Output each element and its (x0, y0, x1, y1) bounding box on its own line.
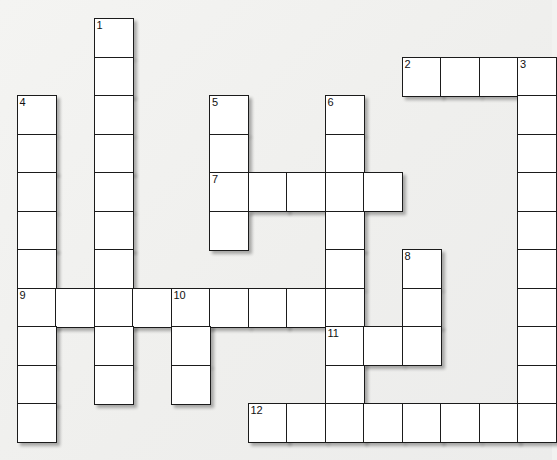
crossword-cell[interactable] (325, 134, 365, 174)
cell-number: 9 (20, 289, 26, 301)
crossword-cell[interactable] (209, 134, 249, 174)
crossword-cell[interactable] (517, 365, 557, 405)
crossword-cell[interactable] (55, 288, 95, 328)
crossword-cell[interactable] (363, 172, 403, 212)
crossword-cell-numbered-1[interactable]: 1 (94, 18, 134, 58)
crossword-cell[interactable] (402, 326, 442, 366)
crossword-cell[interactable] (17, 365, 57, 405)
crossword-cell[interactable] (94, 365, 134, 405)
crossword-cell[interactable] (286, 172, 326, 212)
crossword-cell[interactable] (94, 172, 134, 212)
crossword-cell[interactable] (94, 288, 134, 328)
crossword-cell[interactable] (17, 326, 57, 366)
cell-number: 8 (405, 250, 411, 262)
crossword-cell[interactable] (94, 95, 134, 135)
crossword-cell[interactable] (325, 249, 365, 289)
crossword-cell[interactable] (286, 403, 326, 443)
crossword-cell-numbered-10[interactable]: 10 (171, 288, 211, 328)
crossword-cell-numbered-3[interactable]: 3 (517, 57, 557, 97)
crossword-cell[interactable] (17, 134, 57, 174)
crossword-cell[interactable] (94, 249, 134, 289)
crossword-cell[interactable] (17, 403, 57, 443)
crossword-cell[interactable] (363, 326, 403, 366)
cell-number: 3 (520, 58, 526, 70)
cell-number: 2 (405, 58, 411, 70)
crossword-cell[interactable] (94, 326, 134, 366)
crossword-cell-numbered-9[interactable]: 9 (17, 288, 57, 328)
crossword-cell-numbered-12[interactable]: 12 (248, 403, 288, 443)
crossword-cell[interactable] (517, 249, 557, 289)
cell-number: 6 (328, 96, 334, 108)
crossword-cell[interactable] (440, 57, 480, 97)
crossword-cell[interactable] (517, 326, 557, 366)
crossword-cell-numbered-8[interactable]: 8 (402, 249, 442, 289)
crossword-cell[interactable] (325, 365, 365, 405)
crossword-cell[interactable] (17, 172, 57, 212)
crossword-cell[interactable] (517, 211, 557, 251)
crossword-cell[interactable] (363, 403, 403, 443)
crossword-cell[interactable] (17, 211, 57, 251)
crossword-cell[interactable] (171, 365, 211, 405)
crossword-cell[interactable] (209, 211, 249, 251)
crossword-cell[interactable] (94, 211, 134, 251)
cell-number: 10 (174, 289, 186, 301)
crossword-cell[interactable] (479, 403, 519, 443)
crossword-cell[interactable] (517, 403, 557, 443)
crossword-cell[interactable] (94, 134, 134, 174)
cell-number: 7 (212, 173, 218, 185)
crossword-cell[interactable] (402, 403, 442, 443)
crossword-cell[interactable] (517, 95, 557, 135)
cell-number: 11 (328, 327, 339, 339)
crossword-cell-numbered-2[interactable]: 2 (402, 57, 442, 97)
crossword-cell[interactable] (440, 403, 480, 443)
crossword-cell[interactable] (479, 57, 519, 97)
crossword-cell[interactable] (325, 403, 365, 443)
crossword-cell[interactable] (517, 134, 557, 174)
cell-number: 4 (20, 96, 26, 108)
crossword-cell-numbered-6[interactable]: 6 (325, 95, 365, 135)
crossword-cell[interactable] (17, 249, 57, 289)
crossword-cell[interactable] (248, 288, 288, 328)
crossword-cell[interactable] (325, 288, 365, 328)
crossword-cell[interactable] (248, 172, 288, 212)
crossword-cell[interactable] (94, 57, 134, 97)
crossword-cell[interactable] (325, 172, 365, 212)
crossword-cell[interactable] (286, 288, 326, 328)
crossword-cell[interactable] (517, 172, 557, 212)
cell-number: 12 (251, 404, 263, 416)
crossword-cell[interactable] (171, 326, 211, 366)
crossword-cell[interactable] (132, 288, 172, 328)
crossword-cell-numbered-4[interactable]: 4 (17, 95, 57, 135)
crossword-cell-numbered-5[interactable]: 5 (209, 95, 249, 135)
crossword-cell[interactable] (209, 288, 249, 328)
crossword-cell[interactable] (402, 288, 442, 328)
cell-number: 5 (212, 96, 218, 108)
crossword-cell[interactable] (325, 211, 365, 251)
crossword-cell[interactable] (517, 288, 557, 328)
crossword-cell-numbered-7[interactable]: 7 (209, 172, 249, 212)
crossword-cell-numbered-11[interactable]: 11 (325, 326, 365, 366)
cell-number: 1 (97, 19, 103, 31)
